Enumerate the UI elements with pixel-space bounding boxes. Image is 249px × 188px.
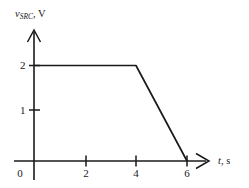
- x-tick-label-6: 6: [184, 168, 190, 179]
- y-axis-title-subscript: SRC: [20, 12, 33, 21]
- waveform-figure: vSRC, V t, s 0 2 4 6 1 2: [0, 0, 249, 188]
- y-tick-label-1: 1: [20, 105, 26, 116]
- y-axis-title: vSRC, V: [15, 9, 46, 20]
- plot-canvas: [0, 0, 249, 188]
- y-axis-title-variable: v: [15, 8, 20, 19]
- y-axis-title-unit: V: [38, 8, 46, 19]
- waveform-trace: [35, 66, 188, 162]
- y-tick-label-2: 2: [20, 60, 26, 71]
- x-tick-label-0: 0: [17, 168, 23, 179]
- x-axis-title: t, s: [218, 156, 230, 167]
- x-tick-label-2: 2: [83, 168, 89, 179]
- x-axis-title-unit: s: [226, 155, 230, 166]
- x-tick-label-4: 4: [133, 168, 139, 179]
